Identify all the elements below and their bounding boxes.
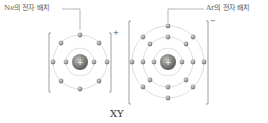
electron-icon (191, 85, 196, 90)
electron-icon (51, 60, 56, 65)
electron-icon (191, 35, 196, 40)
electron-icon (202, 60, 207, 65)
electron-icon (166, 35, 171, 40)
electron-icon (92, 60, 97, 65)
electron-icon (64, 60, 69, 65)
compound-caption: XY (110, 108, 124, 119)
electron-icon (180, 60, 185, 65)
electron-icon (105, 60, 110, 65)
electron-icon (141, 85, 146, 90)
electron-icon (130, 60, 135, 65)
ion-y: + (129, 21, 208, 104)
electron-icon (78, 33, 83, 38)
electron-icon (59, 41, 64, 46)
leader-line-left (62, 9, 80, 30)
ion-x: + (49, 33, 111, 92)
electron-icon (184, 42, 189, 47)
ion-diagram: + + (0, 0, 268, 123)
charge-y: − (210, 17, 216, 25)
electron-icon (97, 41, 102, 46)
electron-icon (152, 60, 157, 65)
electron-icon (166, 85, 171, 90)
svg-text:+: + (165, 58, 172, 67)
electron-icon (78, 87, 83, 92)
electron-icon (191, 60, 196, 65)
electron-icon (166, 24, 171, 29)
electron-icon (59, 79, 64, 84)
electron-icon (148, 42, 153, 47)
electron-icon (166, 96, 171, 101)
electron-icon (141, 35, 146, 40)
leader-line-right (168, 9, 204, 22)
electron-icon (97, 79, 102, 84)
svg-text:+: + (77, 58, 84, 67)
charge-x: + (113, 29, 119, 37)
electron-icon (184, 78, 189, 83)
electron-icon (141, 60, 146, 65)
electron-icon (148, 78, 153, 83)
